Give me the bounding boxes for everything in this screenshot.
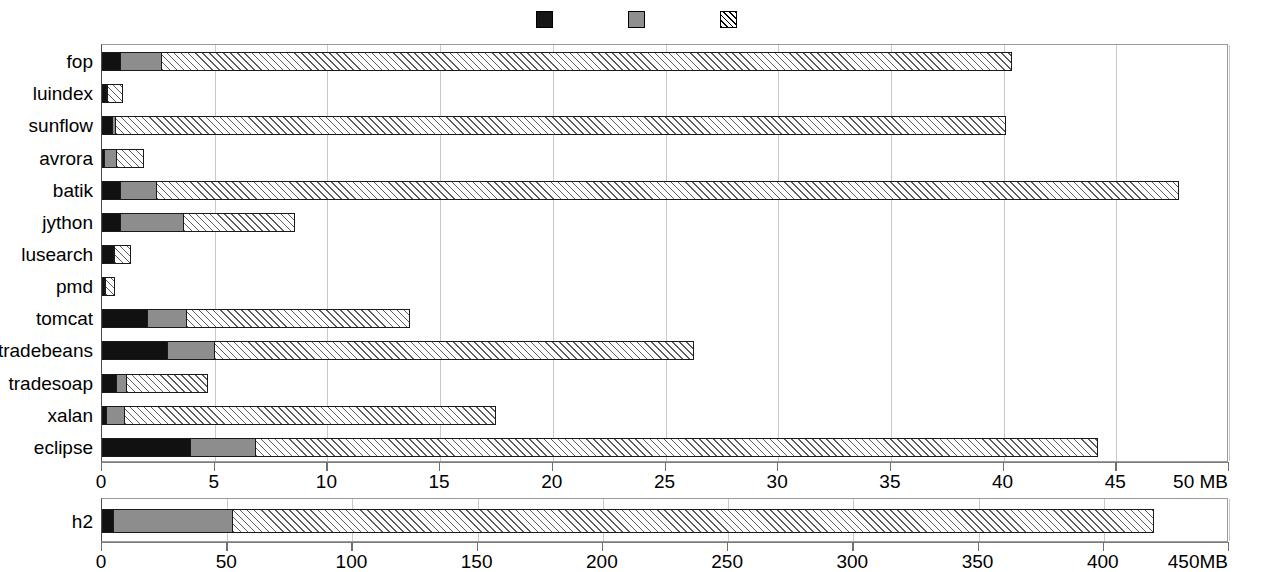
category-label-batik: batik — [0, 181, 93, 200]
axis-tick — [1003, 462, 1004, 471]
bar-row-h2 — [102, 499, 1229, 543]
stacked-bar-tradebeans — [102, 341, 694, 360]
bar-segment-eclipse-2 — [255, 438, 1098, 457]
axis-tick — [852, 542, 853, 551]
axis-tick — [665, 462, 666, 471]
axis-tick-label: 45 — [1105, 472, 1126, 491]
bar-segment-eclipse-1 — [190, 438, 256, 457]
bar-row-tradesoap — [102, 367, 1229, 399]
axis-tick-label: 250 — [711, 552, 743, 571]
axis-tick-label: 5 — [208, 472, 219, 491]
bar-segment-xalan-2 — [124, 406, 496, 425]
legend-item-0 — [536, 11, 560, 28]
gridline — [1229, 45, 1230, 461]
axis-tick — [226, 542, 227, 551]
h2-chart-x-axis: 050100150200250300350400450MB — [101, 542, 1228, 568]
bar-row-avrora — [102, 142, 1229, 174]
h2-chart-plot-area: h2 — [101, 498, 1228, 542]
stacked-bar-tradesoap — [102, 374, 208, 393]
bar-segment-avrora-2 — [116, 149, 144, 168]
axis-line — [101, 542, 1228, 543]
stacked-bar-batik — [102, 181, 1179, 200]
bar-segment-h2-1 — [113, 509, 234, 533]
bar-segment-tomcat-0 — [102, 309, 148, 328]
axis-tick — [326, 462, 327, 471]
main-chart-bars — [102, 45, 1227, 461]
axis-tick — [477, 542, 478, 551]
axis-tick-label: 50 MB — [1173, 472, 1228, 491]
axis-tick-label: 150 — [461, 552, 493, 571]
bar-segment-xalan-1 — [106, 406, 125, 425]
axis-tick — [101, 462, 102, 471]
bar-segment-jython-2 — [183, 213, 296, 232]
category-label-sunflow: sunflow — [0, 116, 93, 135]
axis-tick — [351, 542, 352, 551]
axis-tick — [978, 542, 979, 551]
bar-row-pmd — [102, 271, 1229, 303]
bar-row-tradebeans — [102, 335, 1229, 367]
bar-segment-jython-0 — [102, 213, 121, 232]
axis-tick — [439, 462, 440, 471]
axis-tick-label: 400 — [1087, 552, 1119, 571]
black-swatch-icon — [536, 11, 553, 28]
bar-segment-batik-2 — [156, 181, 1179, 200]
axis-tick-label: 350 — [962, 552, 994, 571]
bar-row-jython — [102, 206, 1229, 238]
axis-tick — [1228, 462, 1229, 471]
category-label-tradebeans: tradebeans — [0, 341, 93, 360]
bar-segment-tradebeans-2 — [214, 341, 694, 360]
bar-segment-batik-1 — [120, 181, 157, 200]
legend-item-2 — [720, 11, 744, 28]
bar-segment-eclipse-0 — [102, 438, 191, 457]
bar-segment-fop-2 — [161, 52, 1012, 71]
axis-tick-label: 50 — [216, 552, 237, 571]
bar-segment-tradebeans-0 — [102, 341, 168, 360]
category-label-fop: fop — [0, 52, 93, 71]
axis-tick — [727, 542, 728, 551]
bar-row-eclipse — [102, 431, 1229, 463]
category-label-avrora: avrora — [0, 149, 93, 168]
axis-tick-label: 200 — [586, 552, 618, 571]
stacked-bar-avrora — [102, 149, 144, 168]
axis-tick — [1103, 542, 1104, 551]
category-label-tomcat: tomcat — [0, 309, 93, 328]
stacked-bar-pmd — [102, 277, 115, 296]
stacked-bar-xalan — [102, 406, 496, 425]
bar-row-luindex — [102, 78, 1229, 110]
chart-legend — [0, 2, 1280, 36]
bar-segment-sunflow-2 — [115, 116, 1005, 135]
bar-segment-tradesoap-0 — [102, 374, 118, 393]
bar-row-xalan — [102, 399, 1229, 431]
bar-segment-luindex-2 — [107, 84, 123, 103]
bar-segment-tomcat-2 — [186, 309, 410, 328]
category-label-jython: jython — [0, 213, 93, 232]
axis-tick-label: 450MB — [1168, 552, 1228, 571]
category-label-lusearch: lusearch — [0, 245, 93, 264]
main-chart-x-axis: 05101520253035404550 MB — [101, 462, 1228, 488]
axis-tick-label: 35 — [879, 472, 900, 491]
chart-page: fopluindexsunflowavrorabatikjythonlusear… — [0, 0, 1280, 572]
stacked-bar-jython — [102, 213, 295, 232]
axis-tick-label: 0 — [96, 472, 107, 491]
main-chart-plot-area: fopluindexsunflowavrorabatikjythonlusear… — [101, 44, 1228, 462]
axis-tick — [101, 542, 102, 551]
axis-tick — [1228, 542, 1229, 551]
axis-tick-label: 40 — [992, 472, 1013, 491]
category-label-luindex: luindex — [0, 84, 93, 103]
axis-tick-label: 30 — [767, 472, 788, 491]
axis-tick — [552, 462, 553, 471]
bar-segment-pmd-2 — [105, 277, 115, 296]
hatched-swatch-icon — [720, 11, 737, 28]
category-label-xalan: xalan — [0, 406, 93, 425]
category-label-eclipse: eclipse — [0, 438, 93, 457]
bar-segment-tomcat-1 — [147, 309, 188, 328]
stacked-bar-lusearch — [102, 245, 131, 264]
axis-tick-label: 0 — [96, 552, 107, 571]
axis-tick — [602, 542, 603, 551]
category-label-h2: h2 — [0, 512, 93, 531]
axis-tick — [890, 462, 891, 471]
bar-segment-fop-1 — [120, 52, 163, 71]
bar-row-batik — [102, 174, 1229, 206]
stacked-bar-eclipse — [102, 438, 1098, 457]
h2-chart-bars — [102, 499, 1227, 541]
